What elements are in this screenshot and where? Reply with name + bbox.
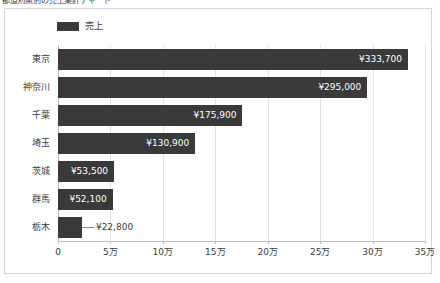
category-label-1: 東京	[32, 54, 50, 65]
chart-row: 千葉¥175,900	[58, 105, 425, 126]
chart-row: 茨城¥53,500	[58, 161, 425, 182]
leader-line-7	[82, 227, 94, 228]
x-tick-mark-5	[268, 241, 269, 244]
chart-row: 栃木¥22,800	[58, 217, 425, 238]
bar-value-label-6: ¥52,100	[69, 194, 106, 204]
x-tick-label-7: 30万	[362, 247, 382, 258]
x-tick-label-8: 35万	[415, 247, 435, 258]
x-tick-mark-2	[110, 241, 111, 244]
plot-inner: 東京¥333,700神奈川¥295,000千葉¥175,900埼玉¥130,90…	[58, 45, 425, 241]
chart-row: 神奈川¥295,000	[58, 77, 425, 98]
x-axis-line	[58, 241, 425, 242]
chart-row: 東京¥333,700	[58, 49, 425, 70]
x-tick-mark-8	[425, 241, 426, 244]
category-label-7: 栃木	[32, 222, 50, 233]
legend-swatch-sales	[57, 22, 79, 31]
category-label-4: 埼玉	[32, 138, 50, 149]
page-title: 都道府県別の売上集計チャート	[2, 0, 111, 5]
category-label-6: 群馬	[32, 194, 50, 205]
chart-frame: 売上 東京¥333,700神奈川¥295,000千葉¥175,900埼玉¥130…	[4, 8, 432, 274]
x-tick-mark-3	[163, 241, 164, 244]
chart-title-strip: 都道府県別の売上集計チャート	[0, 0, 440, 8]
bar-value-label-3: ¥175,900	[193, 110, 236, 120]
plot-area: 東京¥333,700神奈川¥295,000千葉¥175,900埼玉¥130,90…	[58, 45, 425, 241]
category-label-3: 千葉	[32, 110, 50, 121]
x-tick-mark-7	[373, 241, 374, 244]
bar-value-label-7: ¥22,800	[96, 222, 133, 232]
x-tick-label-4: 15万	[205, 247, 225, 258]
x-tick-mark-6	[320, 241, 321, 244]
x-tick-label-1: 0	[55, 247, 61, 258]
bar-value-label-2: ¥295,000	[318, 82, 361, 92]
x-tick-label-6: 25万	[310, 247, 330, 258]
bar-value-label-5: ¥53,500	[71, 166, 108, 176]
x-tick-label-2: 5万	[103, 247, 118, 258]
chart-row: 埼玉¥130,900	[58, 133, 425, 154]
legend-label-sales: 売上	[85, 21, 103, 31]
category-label-5: 茨城	[32, 166, 50, 177]
chart-legend[interactable]: 売上	[57, 21, 103, 31]
x-tick-mark-1	[58, 241, 59, 244]
bar-value-label-4: ¥130,900	[146, 138, 189, 148]
chart-row: 群馬¥52,100	[58, 189, 425, 210]
x-tick-label-5: 20万	[257, 247, 277, 258]
category-label-2: 神奈川	[23, 82, 50, 93]
x-tick-mark-4	[215, 241, 216, 244]
bar-value-label-1: ¥333,700	[359, 54, 402, 64]
bar-7[interactable]	[58, 217, 82, 238]
gridline	[425, 45, 426, 241]
x-tick-label-3: 10万	[153, 247, 173, 258]
bar-1[interactable]	[58, 49, 408, 70]
